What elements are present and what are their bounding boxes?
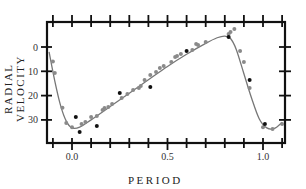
data-point: [143, 78, 147, 82]
x-tick-label: 1.0: [257, 151, 270, 162]
x-axis-label: PERIOD: [128, 174, 183, 186]
data-point: [131, 88, 135, 92]
data-point: [102, 106, 106, 110]
y-tick-label: 0: [33, 42, 38, 53]
data-point: [110, 102, 114, 106]
data-points: [51, 27, 284, 134]
data-point: [185, 49, 189, 53]
data-point: [120, 96, 124, 100]
y-tick-label: 10: [28, 66, 38, 77]
data-point: [280, 122, 284, 126]
data-point: [154, 70, 158, 74]
x-tick-label: 0.0: [66, 151, 79, 162]
data-point: [229, 30, 233, 34]
data-point: [227, 35, 231, 39]
data-point: [242, 60, 246, 64]
data-point: [83, 120, 87, 124]
y-tick-label: 20: [28, 90, 38, 101]
data-point: [196, 43, 200, 47]
data-point: [139, 84, 143, 88]
data-point: [263, 122, 267, 126]
data-point: [80, 122, 84, 126]
data-point: [190, 48, 194, 52]
data-point: [169, 60, 173, 64]
data-point: [232, 27, 236, 31]
data-point: [78, 130, 82, 134]
data-point: [70, 125, 74, 129]
data-point: [248, 78, 252, 82]
data-point: [148, 85, 152, 89]
data-point: [118, 91, 122, 95]
data-point: [204, 40, 208, 44]
axis-ticks: [41, 15, 291, 150]
data-point: [125, 92, 129, 96]
x-tick-label: 0.5: [161, 151, 174, 162]
data-point: [89, 115, 93, 119]
data-point: [74, 115, 78, 119]
data-point: [148, 73, 152, 77]
data-point: [158, 66, 162, 70]
data-point: [53, 71, 57, 75]
data-point: [271, 127, 275, 131]
data-point: [95, 124, 99, 128]
y-axis-label: RADIAL VELOCITY: [2, 34, 24, 144]
data-point: [51, 60, 55, 64]
data-point: [238, 49, 242, 53]
fitted-curve: [49, 36, 282, 129]
data-point: [106, 105, 110, 109]
data-point: [248, 86, 252, 90]
data-point: [162, 64, 166, 68]
radial-velocity-chart: 01020300.00.51.0: [0, 0, 306, 189]
data-point: [175, 54, 179, 58]
data-point: [95, 114, 99, 118]
data-point: [179, 52, 183, 56]
y-tick-label: 30: [28, 114, 38, 125]
data-point: [60, 106, 64, 110]
data-point: [64, 121, 68, 125]
